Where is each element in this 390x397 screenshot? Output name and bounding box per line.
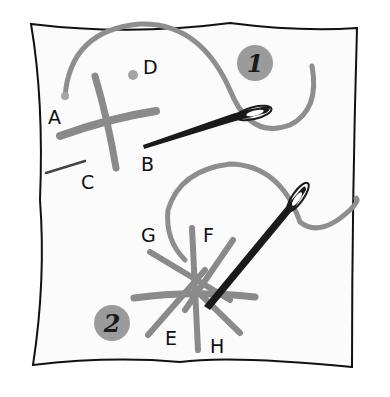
step-badge-2: 2 [94, 305, 130, 341]
fabric-illustration [0, 0, 390, 397]
point-label-f: F [203, 226, 214, 245]
point-d-dot [128, 70, 138, 80]
point-a-dot [61, 92, 69, 100]
stitch-diagram: 1 2 A D B C G F E H [0, 0, 390, 397]
point-label-c: C [81, 173, 94, 192]
point-label-d: D [143, 58, 158, 77]
point-label-g: G [141, 226, 156, 245]
step-badge-1: 1 [237, 45, 273, 81]
point-label-b: B [141, 155, 154, 174]
point-label-h: H [210, 337, 224, 356]
point-label-e: E [165, 329, 177, 348]
point-label-a: A [48, 108, 61, 127]
